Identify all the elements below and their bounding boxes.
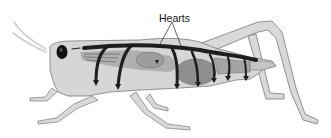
- antennae: [13, 22, 46, 52]
- legs: [30, 88, 190, 130]
- eye-icon: [57, 45, 68, 59]
- hearts-label: Hearts: [159, 13, 190, 24]
